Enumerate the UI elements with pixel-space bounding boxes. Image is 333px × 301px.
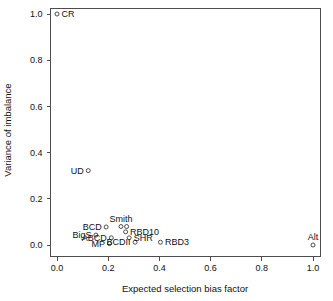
y-tick-label: 0.0 xyxy=(30,240,43,250)
data-point-group xyxy=(55,12,315,247)
data-point-marker xyxy=(119,225,123,229)
y-tick-label: 0.4 xyxy=(30,148,43,158)
y-tick-label: 1.0 xyxy=(30,9,43,19)
x-axis-title: Expected selection bias factor xyxy=(122,283,248,294)
data-point-marker xyxy=(125,225,129,229)
y-tick-label: 0.6 xyxy=(30,102,43,112)
x-tick-label: 0.6 xyxy=(204,263,217,273)
data-point-label: Alt xyxy=(308,232,319,242)
data-point-marker xyxy=(104,225,108,229)
data-point-label: CR xyxy=(62,9,75,19)
x-tick-label: 0.2 xyxy=(102,263,115,273)
data-point-label: BCD xyxy=(83,222,103,232)
y-axis-title: Variance of imbalance xyxy=(2,83,13,176)
y-tick-label: 0.2 xyxy=(30,194,43,204)
x-tick-label: 0.0 xyxy=(51,263,64,273)
x-tick-label: 1.0 xyxy=(307,263,320,273)
x-tick-label: 0.4 xyxy=(153,263,166,273)
y-tick-label: 0.8 xyxy=(30,55,43,65)
data-point-label: RBD3 xyxy=(165,237,189,247)
data-point-label: Smith xyxy=(109,214,132,224)
data-point-label: UD xyxy=(71,166,84,176)
data-point-marker xyxy=(158,240,162,244)
data-point-marker xyxy=(86,169,90,173)
x-tick-label: 0.8 xyxy=(256,263,269,273)
data-point-marker xyxy=(311,243,315,247)
point-label-group: CRUDBigSBCDABCDMPSmithRBD10SHRBCDIIRBD3A… xyxy=(62,9,319,249)
axes-group xyxy=(51,9,321,257)
data-point-label: BCDII xyxy=(107,237,131,247)
data-point-label: MP xyxy=(91,239,105,249)
scatter-plot-figure: 0.00.20.40.60.81.00.00.20.40.60.81.0 CRU… xyxy=(0,0,333,301)
plot-canvas: 0.00.20.40.60.81.00.00.20.40.60.81.0 CRU… xyxy=(0,0,333,301)
plot-frame xyxy=(51,9,321,257)
data-point-marker xyxy=(124,230,128,234)
data-point-marker xyxy=(55,12,59,16)
data-point-label: SHR xyxy=(134,233,154,243)
